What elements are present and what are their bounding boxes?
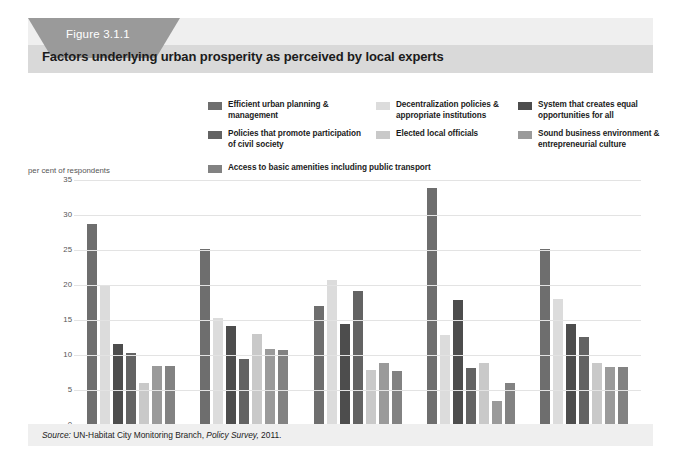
legend-item-1-2[interactable]: Policies that promote participation of c… <box>208 129 368 150</box>
bar[interactable] <box>379 363 389 425</box>
legend-item-wide: Access to basic amenities including publ… <box>208 163 431 174</box>
bar[interactable] <box>165 366 175 425</box>
bar[interactable] <box>340 324 350 425</box>
source-year: 2011. <box>261 430 281 440</box>
bar[interactable] <box>252 334 262 425</box>
bar[interactable] <box>327 280 337 425</box>
bar-group: All regions <box>528 180 641 425</box>
plot-area: AfricaAsiaLACArab StatesAll regions <box>74 180 641 425</box>
gridline <box>74 215 641 216</box>
y-axis-tick-label: 15 <box>56 315 72 324</box>
bar[interactable] <box>265 349 275 425</box>
bar-set <box>540 180 628 425</box>
legend-item-1-1[interactable]: Efficient urban planning & management <box>208 100 368 121</box>
bar[interactable] <box>226 326 236 425</box>
figure-footer: Source: UN-Habitat City Monitoring Branc… <box>28 424 653 446</box>
chart-panel: Efficient urban planning & managementPol… <box>28 73 653 424</box>
bar[interactable] <box>566 324 576 425</box>
gridline <box>74 320 641 321</box>
legend-item-2-2[interactable]: Elected local officials <box>376 129 536 140</box>
bar[interactable] <box>239 359 249 426</box>
legend-label: Policies that promote participation of c… <box>228 129 368 150</box>
legend-label: System that creates equal opportunities … <box>538 100 678 121</box>
bar[interactable] <box>366 370 376 425</box>
legend-column-3: System that creates equal opportunities … <box>518 100 678 158</box>
bar[interactable] <box>479 363 489 425</box>
bar-group: LAC <box>301 180 414 425</box>
chart-legend: Efficient urban planning & managementPol… <box>208 100 648 178</box>
bar[interactable] <box>492 401 502 426</box>
bar[interactable] <box>605 367 615 425</box>
plot-wrapper: AfricaAsiaLACArab StatesAll regions 0510… <box>56 180 641 425</box>
bar[interactable] <box>87 224 97 425</box>
y-axis-tick-label: 10 <box>56 350 72 359</box>
legend-item-3-2[interactable]: Sound business environment & entrepreneu… <box>518 129 678 150</box>
legend-column-2: Decentralization policies & appropriate … <box>376 100 536 148</box>
source-prefix: Source: <box>42 430 71 440</box>
legend-swatch-icon <box>208 102 222 110</box>
bar[interactable] <box>466 368 476 425</box>
bar[interactable] <box>440 335 450 425</box>
bar[interactable] <box>392 371 402 425</box>
bar[interactable] <box>579 337 589 425</box>
y-axis-tick-label: 35 <box>56 175 72 184</box>
gridline <box>74 180 641 181</box>
legend-swatch-icon <box>518 102 532 110</box>
gridline <box>74 250 641 251</box>
legend-label: Sound business environment & entrepreneu… <box>538 129 678 150</box>
bar-set <box>87 180 175 425</box>
legend-swatch-icon <box>376 131 390 139</box>
legend-label: Decentralization policies & appropriate … <box>396 100 536 121</box>
legend-column-1: Efficient urban planning & managementPol… <box>208 100 368 158</box>
gridline <box>74 355 641 356</box>
bar[interactable] <box>314 306 324 425</box>
source-body: UN-Habitat City Monitoring Branch, <box>73 430 204 440</box>
source-survey-name: Policy Survey, <box>206 430 258 440</box>
y-axis-tick-label: 5 <box>56 385 72 394</box>
bar-set <box>427 180 515 425</box>
bar[interactable] <box>152 366 162 425</box>
figure-root: Figure 3.1.1 Factors underlying urban pr… <box>0 0 681 464</box>
bar-set <box>314 180 402 425</box>
page-title: Factors underlying urban prosperity as p… <box>42 49 444 64</box>
bar[interactable] <box>278 350 288 425</box>
y-axis-tick-label: 20 <box>56 280 72 289</box>
legend-swatch-icon <box>208 131 222 139</box>
bar-group: Asia <box>187 180 300 425</box>
legend-item-3-1[interactable]: System that creates equal opportunities … <box>518 100 678 121</box>
legend-label: Elected local officials <box>396 129 478 140</box>
bar[interactable] <box>618 367 628 425</box>
bar-group: Africa <box>74 180 187 425</box>
y-axis-title: per cent of respondents <box>28 166 110 175</box>
bar-groups: AfricaAsiaLACArab StatesAll regions <box>74 180 641 425</box>
figure-card: Figure 3.1.1 Factors underlying urban pr… <box>28 18 653 446</box>
y-axis-tick-label: 30 <box>56 210 72 219</box>
gridline <box>74 390 641 391</box>
figure-number-label: Figure 3.1.1 <box>66 28 130 40</box>
legend-swatch-icon <box>518 131 532 139</box>
bar[interactable] <box>353 291 363 425</box>
gridline <box>74 285 641 286</box>
bar[interactable] <box>126 353 136 425</box>
legend-swatch-icon <box>208 165 222 173</box>
legend-swatch-icon <box>376 102 390 110</box>
bar[interactable] <box>213 318 223 425</box>
bar-group: Arab States <box>414 180 527 425</box>
legend-item-2-1[interactable]: Decentralization policies & appropriate … <box>376 100 536 121</box>
legend-label: Efficient urban planning & management <box>228 100 368 121</box>
bar-set <box>200 180 288 425</box>
y-axis-tick-label: 25 <box>56 245 72 254</box>
source-note: Source: UN-Habitat City Monitoring Branc… <box>42 430 281 440</box>
legend-label: Access to basic amenities including publ… <box>228 163 431 174</box>
bar[interactable] <box>540 249 550 425</box>
bar[interactable] <box>200 249 210 425</box>
bar[interactable] <box>553 299 563 425</box>
bar[interactable] <box>592 363 602 425</box>
